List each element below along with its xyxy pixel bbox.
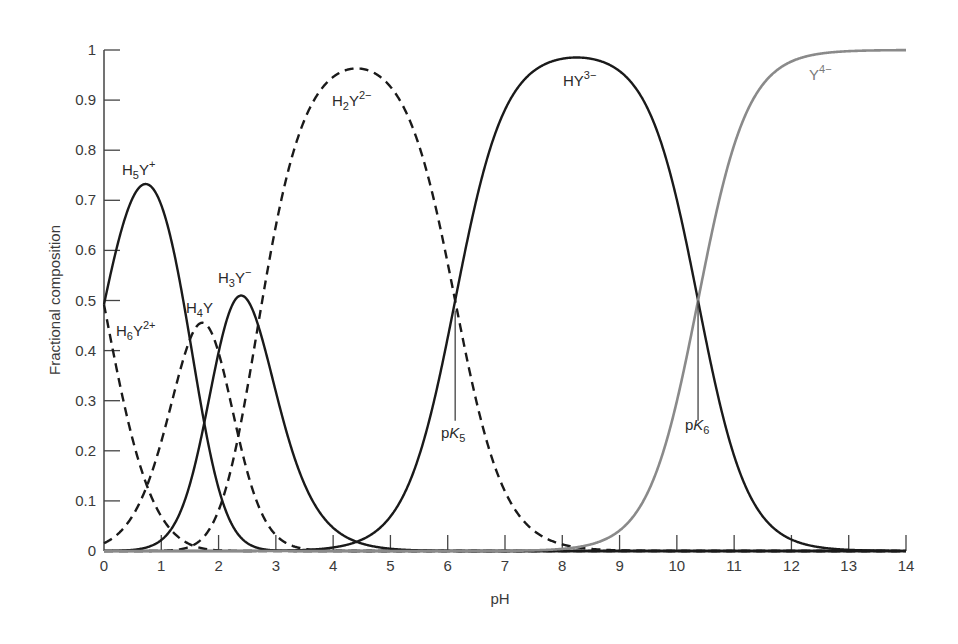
annotations (455, 301, 698, 421)
x-axis-title: pH (490, 590, 509, 607)
y-tick-label: 0.8 (75, 141, 96, 158)
label-hy: HY3− (563, 69, 596, 89)
label-h4y: H4Y (186, 299, 213, 319)
y-tick-label: 0.1 (75, 492, 96, 509)
x-tick-label: 12 (783, 557, 800, 574)
curve-hy3 (104, 57, 889, 551)
x-tick-label: 7 (501, 557, 509, 574)
y-tick-label: 0.9 (75, 91, 96, 108)
y-tick-label: 0.7 (75, 191, 96, 208)
label-pk5: pK5 (441, 424, 465, 444)
curve-y4 (104, 50, 906, 551)
label-y: Y4− (809, 63, 832, 83)
curve-h5y (104, 184, 906, 551)
y-tick-label: 0.6 (75, 241, 96, 258)
y-tick-label: 0.4 (75, 342, 96, 359)
y-tick-label: 0.5 (75, 292, 96, 309)
x-tick-label: 5 (386, 557, 394, 574)
x-tick-label: 1 (157, 557, 165, 574)
y-tick-label: 0 (88, 542, 96, 559)
curve-h3y (104, 296, 906, 551)
x-tick-label: 0 (100, 557, 108, 574)
x-tick-label: 8 (558, 557, 566, 574)
label-h2y: H2Y2− (332, 89, 372, 112)
label-pk6: pK6 (685, 416, 709, 436)
speciation-chart: 00.10.20.30.40.50.60.70.80.9101234567891… (0, 0, 958, 644)
x-tick-label: 9 (615, 557, 623, 574)
curve-h6y2 (104, 304, 906, 551)
x-tick-label: 14 (898, 557, 915, 574)
x-tick-label: 13 (840, 557, 857, 574)
label-h5y: H5Y+ (122, 158, 155, 181)
x-tick-label: 11 (726, 557, 742, 574)
y-tick-label: 0.2 (75, 442, 96, 459)
x-tick-label: 6 (444, 557, 452, 574)
x-tick-label: 3 (272, 557, 280, 574)
y-tick-label: 1 (88, 41, 96, 58)
x-tick-label: 10 (669, 557, 686, 574)
x-tick-label: 4 (329, 557, 337, 574)
label-h6y: H6Y2+ (116, 319, 156, 342)
y-axis-title: Fractional composition (46, 225, 63, 375)
y-tick-label: 0.3 (75, 392, 96, 409)
curve-h2y2 (104, 68, 906, 551)
x-tick-label: 2 (214, 557, 222, 574)
curve-h4y (104, 323, 906, 551)
curves (104, 50, 906, 551)
label-h3y: H3Y− (218, 266, 251, 289)
